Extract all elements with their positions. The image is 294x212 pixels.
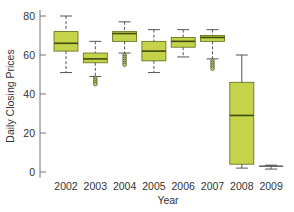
x-axis: 20022003200420052006200720082009 [54, 180, 283, 192]
iqr-box [230, 82, 254, 164]
y-tick-label: 20 [23, 127, 35, 139]
x-tick-label: 2007 [201, 180, 225, 192]
box-2006 [171, 30, 195, 57]
y-axis: 020406080 [23, 10, 46, 178]
box-2008 [230, 55, 254, 168]
x-tick-label: 2003 [84, 180, 108, 192]
plot-area: 020406080 200220032004200520062007200820… [0, 0, 294, 212]
iqr-box [83, 53, 107, 63]
box-2005 [142, 30, 166, 73]
x-tick-label: 2004 [113, 180, 137, 192]
y-axis-title: Daily Closing Prices [4, 49, 16, 142]
outlier-point [211, 67, 215, 71]
x-tick-label: 2002 [54, 180, 78, 192]
box-2003 [83, 41, 107, 86]
box-2002 [54, 16, 78, 73]
outlier-point [123, 63, 127, 67]
x-axis-title: Year [157, 194, 179, 206]
x-tick-label: 2006 [172, 180, 196, 192]
box-series [54, 16, 283, 169]
outlier-point [94, 82, 98, 86]
iqr-box [171, 37, 195, 47]
box-2009 [259, 165, 283, 169]
y-tick-label: 80 [23, 10, 35, 22]
box-plot-chart: 020406080 200220032004200520062007200820… [0, 0, 294, 212]
y-tick-label: 60 [23, 49, 35, 61]
x-tick-label: 2009 [259, 180, 283, 192]
iqr-box [54, 32, 78, 51]
x-tick-label: 2008 [230, 180, 254, 192]
y-tick-label: 40 [23, 88, 35, 100]
box-2004 [113, 22, 137, 67]
iqr-box [201, 36, 225, 42]
box-2007 [201, 30, 225, 71]
y-tick-label: 0 [29, 166, 35, 178]
x-tick-label: 2005 [142, 180, 166, 192]
